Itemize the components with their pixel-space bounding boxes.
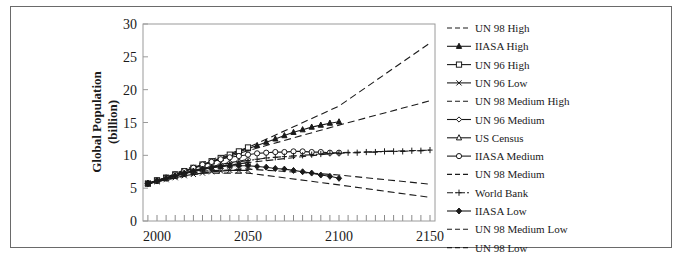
series-iiasa-low xyxy=(145,163,341,187)
marker-triangle-filled xyxy=(300,127,305,132)
legend-item: IIASA Low xyxy=(447,205,527,217)
marker-circle-open xyxy=(218,157,223,162)
legend-item: World Bank xyxy=(447,187,529,199)
marker-plus xyxy=(427,147,432,153)
series-us-census xyxy=(145,159,250,185)
legend-label: UN 96 Low xyxy=(475,77,528,89)
legend-item: IIASA Medium xyxy=(447,150,544,162)
legend-label: World Bank xyxy=(475,187,529,199)
y-tick-label: 25 xyxy=(123,50,137,65)
series-line xyxy=(148,170,248,183)
series-world-bank xyxy=(145,147,432,187)
marker-plus xyxy=(346,150,351,156)
legend-label: UN 98 Medium High xyxy=(475,95,570,107)
legend-label: UN 96 High xyxy=(475,59,530,71)
series-un-98-low xyxy=(148,173,430,197)
marker-triangle-filled xyxy=(318,122,323,127)
legend-label: IIASA Medium xyxy=(475,150,544,162)
legend-label: UN 98 Low xyxy=(475,242,528,254)
x-tick-label: 2100 xyxy=(325,229,353,244)
marker-circle-open xyxy=(255,151,260,156)
marker-plus xyxy=(400,148,405,154)
marker-plus xyxy=(382,148,387,154)
legend-label: IIASA High xyxy=(475,40,529,52)
x-tick-label: 2050 xyxy=(234,229,262,244)
marker-plus xyxy=(409,148,414,154)
series-un-96-medium xyxy=(145,157,250,186)
series-line xyxy=(148,150,430,184)
marker-diamond-filled xyxy=(264,164,269,170)
x-axis-ticks: 2000205021002150 xyxy=(143,215,444,244)
marker-triangle-filled xyxy=(273,136,278,141)
y-axis-label-line: (billion) xyxy=(105,100,120,144)
marker-triangle-filled xyxy=(327,120,332,125)
legend-label: UN 96 Medium xyxy=(475,114,545,126)
marker-plus xyxy=(418,148,423,154)
plot-area xyxy=(143,24,435,221)
marker-triangle-filled xyxy=(291,129,296,134)
marker-plus xyxy=(364,149,369,155)
marker-triangle-filled xyxy=(309,124,314,129)
series-un-98-high xyxy=(148,43,430,184)
legend-label: US Census xyxy=(475,132,524,144)
y-tick-label: 10 xyxy=(123,148,137,163)
marker-triangle-filled xyxy=(255,142,260,147)
legend: UN 98 HighIIASA HighUN 96 HighUN 96 LowU… xyxy=(447,22,570,254)
marker-triangle-open xyxy=(456,135,461,140)
y-tick-label: 15 xyxy=(123,116,137,131)
x-tick-label: 2150 xyxy=(416,229,444,244)
marker-diamond-filled xyxy=(456,208,461,214)
marker-circle-open xyxy=(227,155,232,160)
y-tick-label: 20 xyxy=(123,83,137,98)
legend-label: UN 98 Medium xyxy=(475,168,545,180)
marker-plus xyxy=(355,150,360,156)
marker-square-open xyxy=(456,62,461,67)
marker-diamond-filled xyxy=(300,169,305,175)
marker-plus xyxy=(273,154,278,160)
marker-circle-open xyxy=(273,149,278,154)
legend-item: UN 96 Low xyxy=(447,77,528,89)
legend-item: IIASA High xyxy=(447,40,529,52)
series-un-98-medium xyxy=(148,150,430,184)
y-axis-label: Global Population(billion) xyxy=(89,70,120,172)
marker-triangle-filled xyxy=(336,119,341,124)
marker-circle-open xyxy=(245,152,250,157)
y-tick-label: 30 xyxy=(123,17,137,32)
marker-diamond-open xyxy=(456,117,461,122)
marker-square-open xyxy=(245,145,250,150)
marker-plus xyxy=(456,190,461,196)
legend-label: UN 98 High xyxy=(475,22,530,34)
marker-circle-open xyxy=(209,159,214,164)
y-axis-ticks: 051015202530 xyxy=(123,17,148,229)
legend-item: UN 96 High xyxy=(447,59,530,71)
marker-circle-open xyxy=(236,153,241,158)
marker-diamond-filled xyxy=(336,175,341,181)
marker-circle-open xyxy=(456,154,461,159)
y-axis-label-line: Global Population xyxy=(89,70,104,172)
series-line xyxy=(148,43,430,184)
y-tick-label: 5 xyxy=(130,181,137,196)
origin-marker xyxy=(145,181,150,186)
legend-item: US Census xyxy=(447,132,524,144)
marker-triangle-filled xyxy=(456,43,461,48)
legend-item: UN 98 Medium Low xyxy=(447,223,568,235)
marker-triangle-filled xyxy=(282,133,287,138)
legend-item: UN 98 Medium High xyxy=(447,95,570,107)
legend-label: UN 98 Medium Low xyxy=(475,223,568,235)
legend-item: UN 96 Medium xyxy=(447,114,545,126)
marker-plus xyxy=(391,148,396,154)
x-tick-label: 2000 xyxy=(143,229,171,244)
legend-label: IIASA Low xyxy=(475,205,527,217)
legend-item: UN 98 High xyxy=(447,22,530,34)
marker-diamond-filled xyxy=(318,172,323,178)
series-layer xyxy=(145,43,432,197)
population-chart: Global Population(billion) 051015202530 … xyxy=(0,0,681,257)
legend-item: UN 98 Low xyxy=(447,242,528,254)
y-tick-label: 0 xyxy=(130,214,137,229)
legend-item: UN 98 Medium xyxy=(447,168,545,180)
series-line xyxy=(148,150,430,184)
marker-plus xyxy=(373,149,378,155)
marker-diamond-filled xyxy=(255,163,260,169)
series-line xyxy=(148,173,430,197)
marker-circle-open xyxy=(264,150,269,155)
